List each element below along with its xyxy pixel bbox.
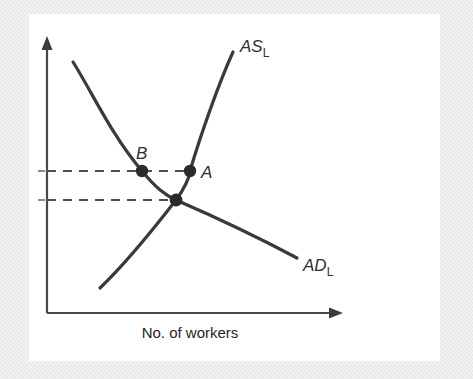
curve-ad-labour xyxy=(73,62,297,258)
axes-group xyxy=(42,36,344,319)
curve-label-ad-sub: L xyxy=(327,265,334,279)
curve-label-as-main: AS xyxy=(239,37,263,56)
point-label-a: A xyxy=(200,163,212,182)
curve-label-ad-main: AD xyxy=(302,256,327,275)
point-equilibrium-marker xyxy=(170,194,183,207)
x-axis-arrow-right-icon xyxy=(329,308,343,319)
curve-label-ad: ADL xyxy=(302,256,334,279)
curve-label-as: ASL xyxy=(239,37,270,60)
labour-market-diagram: ASL ADL B A No. of workers xyxy=(0,0,473,379)
point-label-b: B xyxy=(136,144,147,163)
point-a-marker xyxy=(184,165,196,177)
curve-label-as-sub: L xyxy=(263,46,270,60)
point-b-marker xyxy=(136,165,148,177)
y-axis-arrow-up-icon xyxy=(42,36,53,50)
figure-container: ASL ADL B A No. of workers xyxy=(0,0,473,379)
x-axis-title: No. of workers xyxy=(142,324,239,341)
y-axis-tick-stubs xyxy=(38,171,45,200)
